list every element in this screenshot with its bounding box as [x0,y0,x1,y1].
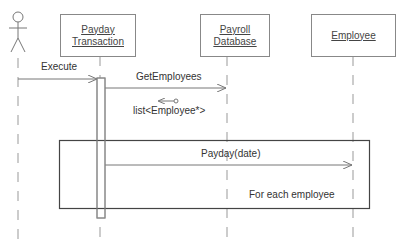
sequence-diagram: Payday Transaction Payroll Database Empl… [0,0,398,246]
object-name-line2: Database [214,36,257,47]
actor-icon [9,12,27,52]
object-name-line2: Transaction [72,36,124,47]
object-name-payday-transaction: Payday Transaction [72,24,124,48]
message-label-execute: Execute [41,61,77,72]
message-label-payday: Payday(date) [201,148,260,159]
return-arrow-icon [159,99,178,103]
object-payroll-database: Payroll Database [200,14,270,57]
object-name-payroll-database: Payroll Database [214,24,257,48]
loop-label: For each employee [249,189,335,200]
object-name-line1: Payday [81,24,114,35]
object-employee: Employee [311,14,396,57]
activation-bar [97,78,105,218]
object-payday-transaction: Payday Transaction [60,14,136,57]
object-name-line1: Payroll [220,24,251,35]
message-label-get-employees: GetEmployees [136,71,202,82]
object-name-employee: Employee [331,30,375,42]
message-label-return-list: list<Employee*> [133,105,205,116]
